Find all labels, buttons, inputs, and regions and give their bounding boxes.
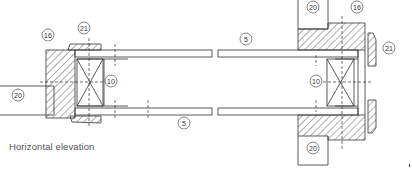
label-21-right: 21 bbox=[385, 45, 393, 52]
label-21-left: 21 bbox=[80, 25, 88, 32]
bottom-glass-right bbox=[218, 108, 358, 115]
drawing-caption: Horizontal elevation bbox=[9, 141, 94, 152]
left-jamb-16 bbox=[46, 50, 75, 118]
page-mark bbox=[409, 164, 410, 167]
label-10-right: 10 bbox=[312, 78, 320, 85]
label-5-bottom: 5 bbox=[182, 120, 186, 127]
label-20-right-top: 20 bbox=[309, 4, 317, 11]
label-16-left: 16 bbox=[44, 32, 52, 39]
right-head-16 bbox=[298, 23, 365, 50]
top-glass-left bbox=[75, 50, 212, 57]
right-stop-21-bottom bbox=[368, 100, 376, 133]
left-stop-21-bottom bbox=[70, 116, 101, 123]
label-10-left: 10 bbox=[107, 78, 115, 85]
bottom-glass-left bbox=[75, 108, 212, 115]
left-stop-21-top bbox=[68, 44, 101, 50]
right-head-16-bottom bbox=[298, 115, 365, 140]
top-glass-right bbox=[218, 50, 358, 57]
label-16-right: 16 bbox=[353, 4, 361, 11]
label-5-top: 5 bbox=[244, 36, 248, 43]
label-20-left: 20 bbox=[14, 92, 22, 99]
right-stop-21-top bbox=[368, 33, 376, 66]
label-20-right-bottom: 20 bbox=[309, 145, 317, 152]
